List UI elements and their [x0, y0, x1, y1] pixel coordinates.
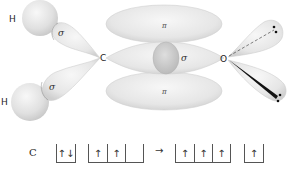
sigma-co-label: σ [181, 53, 188, 63]
orbital-box: ↑ [212, 144, 230, 162]
carbon-label: C [100, 53, 106, 63]
element-label: C [29, 147, 37, 158]
sigma-co-orbital: σ [106, 42, 224, 74]
pi-orbital-bottom: π [106, 72, 222, 110]
oxygen-lone-pair-bottom [228, 60, 286, 102]
orbital-box [125, 144, 143, 162]
ground-s-orbital-box: ↑↓ [56, 144, 76, 163]
sp2-orbital-boxes: ↑ ↑ ↑ [175, 144, 231, 163]
transition-arrow: → [155, 145, 163, 156]
sigma-ch-bottom-orbital: σ [41, 58, 100, 101]
orbital-box: ↑ [245, 144, 263, 162]
oxygen-lone-pair-top [228, 20, 283, 57]
ground-p-orbital-boxes: ↑ ↑ [88, 144, 144, 163]
orbital-diagram: π π σ σ σ H H C O [0, 0, 292, 135]
orbital-box: ↑↓ [57, 144, 75, 162]
pi-bottom-label: π [161, 88, 167, 96]
electron-configuration: C ↑↓ ↑ ↑ → ↑ ↑ ↑ ↑ [0, 142, 292, 168]
orbital-box: ↑ [107, 144, 125, 162]
hydrogen-top-label: H [9, 14, 16, 24]
hydrogen-bottom-label: H [1, 97, 8, 107]
oxygen-label: O [220, 54, 227, 64]
orbital-box: ↑ [176, 144, 194, 162]
sigma-ch-top-label: σ [58, 28, 65, 38]
unhybridized-p-orbital-box: ↑ [244, 144, 264, 163]
orbital-box: ↑ [89, 144, 107, 162]
sigma-ch-top-orbital: σ [52, 23, 100, 58]
pi-orbital-top: π [106, 5, 222, 43]
sigma-ch-bottom-label: σ [49, 82, 56, 92]
orbital-box: ↑ [194, 144, 212, 162]
pi-top-label: π [161, 22, 167, 30]
